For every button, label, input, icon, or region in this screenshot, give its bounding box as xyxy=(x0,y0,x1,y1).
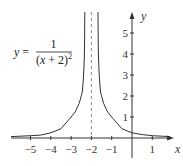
x-tick-label: −2 xyxy=(86,143,98,155)
curve-right-branch xyxy=(98,12,170,137)
y-tick-label: 2 xyxy=(123,90,129,102)
chart: −5 −4 −3 −2 −1 1 1 2 3 4 5 x y y = 1 (x … xyxy=(0,0,183,166)
y-tick-label: 1 xyxy=(123,111,129,123)
x-tick-label: −3 xyxy=(65,143,77,155)
x-axis-label: x xyxy=(174,142,181,156)
y-axis-label: y xyxy=(140,9,147,23)
equation-numerator: 1 xyxy=(51,37,57,51)
y-axis-arrow-icon xyxy=(130,12,135,19)
function-label: y = 1 (x + 2)2 xyxy=(13,37,72,67)
x-tick-label: −4 xyxy=(45,143,57,155)
curve-left-branch xyxy=(11,12,85,137)
x-tick-label: 1 xyxy=(150,143,156,155)
y-tick-label: 5 xyxy=(123,27,129,39)
x-tick-label: −1 xyxy=(106,143,118,155)
x-tick-label: −5 xyxy=(25,143,37,155)
y-tick-label: 4 xyxy=(123,48,129,60)
equation-denominator: (x + 2)2 xyxy=(36,52,72,67)
equation-lhs: y = xyxy=(13,45,29,59)
y-tick-label: 3 xyxy=(123,69,129,81)
